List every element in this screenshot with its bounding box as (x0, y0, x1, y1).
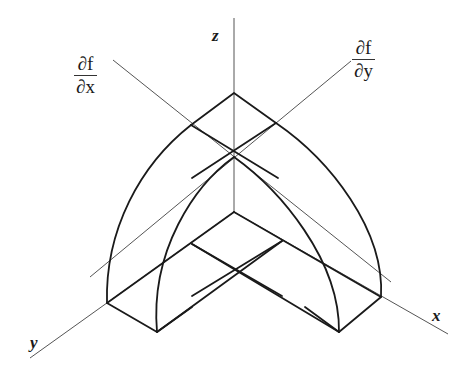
df-dy-label: ∂f ∂y (352, 38, 375, 81)
base-right-bottom-edge (192, 244, 339, 332)
diagram-canvas: z x y ∂f ∂x ∂f ∂y (0, 0, 473, 376)
df-dx-denominator: ∂x (74, 77, 97, 97)
outer-curve-left (107, 125, 191, 303)
inner-curve-left (156, 157, 234, 332)
z-axis-label: z (212, 27, 219, 44)
df-dx-numerator: ∂f (74, 54, 97, 74)
base-frame-left (107, 212, 234, 332)
outer-curve-right (276, 123, 381, 297)
x-axis-label: x (432, 307, 441, 324)
surface-diagram (0, 0, 473, 376)
df-dy-denominator: ∂y (352, 61, 375, 81)
df-dy-numerator: ∂f (352, 38, 375, 58)
inner-curve-right (234, 157, 339, 332)
y-axis-label: y (30, 334, 38, 351)
df-dx-label: ∂f ∂x (74, 54, 97, 97)
